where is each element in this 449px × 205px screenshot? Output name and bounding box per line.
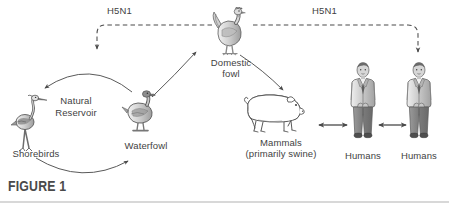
natural-reservoir-label-line2: Reservoir: [40, 107, 112, 118]
domestic-fowl-label-line1: Domestic: [193, 57, 269, 68]
figure-container: H5N1 H5N1 Shorebirds Waterfowl Natural R…: [0, 0, 449, 205]
h5n1-right-dashed-arrow: [253, 25, 418, 52]
figure-caption: FIGURE 1: [8, 178, 66, 194]
duck-icon: [122, 91, 155, 131]
reservoir-top-arc-arrow: [45, 74, 132, 92]
mammals-label-line2: (primarily swine): [225, 148, 337, 159]
human-icon: [407, 62, 431, 137]
shorebirds-label: Shorebirds: [0, 148, 72, 159]
h5n1-left-dashed-arrow: [97, 25, 212, 49]
natural-reservoir-label-line1: Natural: [40, 95, 112, 106]
waterfowl-to-fowl-arrow: [152, 52, 196, 97]
humans-label-right: Humans: [386, 150, 449, 161]
bottom-divider: [0, 201, 449, 203]
chicken-icon: [213, 7, 245, 55]
reservoir-bottom-arc-arrow: [36, 158, 128, 173]
mammals-label-line1: Mammals: [233, 137, 329, 148]
waterfowl-label: Waterfowl: [108, 140, 184, 151]
domestic-fowl-label-line2: fowl: [193, 68, 269, 79]
h5n1-label-right: H5N1: [312, 5, 337, 16]
pig-icon: [244, 95, 304, 132]
h5n1-label-left: H5N1: [107, 5, 132, 16]
human-icon: [351, 62, 375, 137]
